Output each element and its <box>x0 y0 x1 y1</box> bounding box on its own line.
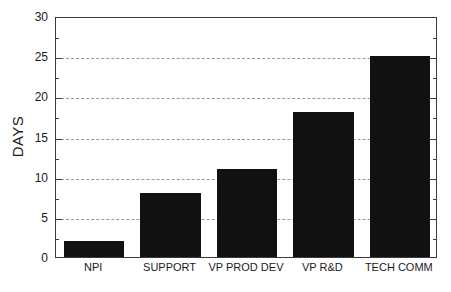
axis-tick <box>56 38 59 39</box>
axis-tick <box>56 118 59 119</box>
y-tick-label: 25 <box>2 51 48 63</box>
axis-tick <box>430 58 436 59</box>
bar <box>140 193 200 257</box>
y-tick-label: 30 <box>2 11 48 23</box>
axis-tick <box>433 239 436 240</box>
axis-tick <box>430 219 436 220</box>
axis-tick <box>56 98 62 99</box>
axis-tick <box>433 38 436 39</box>
axis-tick <box>433 159 436 160</box>
axis-tick <box>56 159 59 160</box>
axis-tick <box>56 139 62 140</box>
axis-tick <box>430 179 436 180</box>
x-tick-label: VP PROD DEV <box>208 262 284 273</box>
y-tick-label: 5 <box>2 212 48 224</box>
bar-chart: DAYS 051015202530 NPISUPPORTVP PROD DEVV… <box>0 0 451 292</box>
x-tick-label: SUPPORT <box>131 262 207 273</box>
axis-tick <box>430 98 436 99</box>
y-tick-label: 15 <box>2 132 48 144</box>
x-tick-label: VP R&D <box>284 262 360 273</box>
y-tick-label: 0 <box>2 252 48 264</box>
y-tick-label: 20 <box>2 91 48 103</box>
bar <box>64 241 124 257</box>
axis-tick <box>56 219 62 220</box>
axis-tick <box>56 199 59 200</box>
axis-tick <box>56 58 62 59</box>
x-tick-label: NPI <box>55 262 131 273</box>
bar <box>370 56 430 257</box>
axis-tick <box>433 199 436 200</box>
axis-tick <box>56 239 59 240</box>
axis-tick <box>433 78 436 79</box>
bar <box>293 112 353 257</box>
axis-tick <box>56 78 59 79</box>
x-tick-label: TECH COMM <box>361 262 437 273</box>
bar <box>217 169 277 257</box>
axis-tick <box>430 139 436 140</box>
y-tick-label: 10 <box>2 172 48 184</box>
axis-tick <box>433 118 436 119</box>
axis-tick <box>56 179 62 180</box>
plot-area <box>55 17 437 258</box>
